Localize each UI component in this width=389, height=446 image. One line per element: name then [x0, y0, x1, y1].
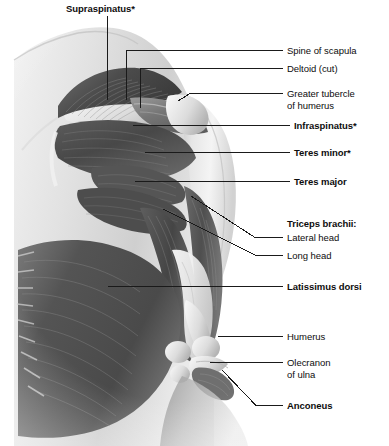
- label-teres-minor: Teres minor*: [294, 147, 351, 159]
- label-supraspinatus: Supraspinatus*: [66, 3, 135, 15]
- label-latissimus-dorsi: Latissimus dorsi: [287, 281, 362, 293]
- anatomy-figure: Supraspinatus* Spine of scapula Deltoid …: [0, 0, 389, 446]
- label-lateral-head: Lateral head: [287, 232, 339, 244]
- label-humerus: Humerus: [287, 331, 325, 343]
- label-anconeus: Anconeus: [287, 400, 333, 412]
- label-olecranon-of-ulna: Olecranon of ulna: [287, 357, 330, 380]
- label-triceps-brachii: Triceps brachii:: [287, 218, 356, 230]
- label-deltoid-cut: Deltoid (cut): [287, 63, 338, 75]
- label-infraspinatus: Infraspinatus*: [294, 120, 357, 132]
- label-greater-tubercle-of-humerus: Greater tubercle of humerus: [287, 88, 355, 111]
- label-teres-major: Teres major: [294, 176, 347, 188]
- label-long-head: Long head: [287, 250, 331, 262]
- label-spine-of-scapula: Spine of scapula: [287, 45, 356, 57]
